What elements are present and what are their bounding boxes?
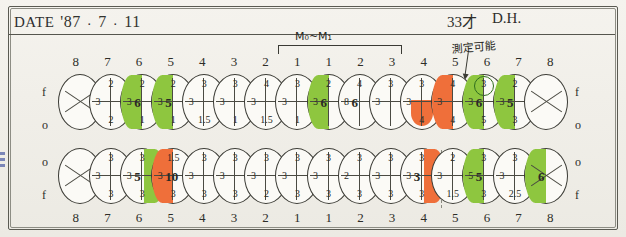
header-date-line: DATE '87 · 7 · 11 [14, 10, 141, 34]
pocket-depth-top: 3 [476, 153, 492, 163]
upper-tooth-number-7: 1 [281, 54, 313, 70]
pocket-depth-bottom: 3 [352, 189, 368, 199]
pocket-depth-top: 3 [289, 79, 305, 89]
pocket-depth-top: 2 [445, 153, 461, 163]
pocket-depth-top: 3 [227, 153, 243, 163]
upper-tooth-number-13: 6 [471, 54, 503, 70]
date-day: 11 [124, 13, 140, 31]
lower-tooth-numbers: 8765432112345678 [60, 210, 566, 226]
upper-tooth-number-3: 5 [155, 54, 187, 70]
pocket-depth-bottom: 3 [103, 189, 119, 199]
pocket-depth-top: 3 [321, 153, 337, 163]
pocket-depth-bottom: 3 [507, 115, 523, 125]
pocket-depth-top: 3 [196, 79, 212, 89]
pocket-depth-top: 2 [165, 79, 181, 89]
pocket-depth-bottom: 1 [289, 115, 305, 125]
lower-tooth-number-14: 7 [503, 210, 535, 226]
lower-tooth-number-4: 4 [187, 210, 219, 226]
pocket-depth-bottom: 3 [134, 189, 150, 199]
pocket-depth-bottom: 3 [476, 189, 492, 199]
date-month: 7 [98, 13, 107, 31]
pocket-depth-top: 2 [103, 79, 119, 89]
pocket-depth-top: 3 [289, 153, 305, 163]
upper-left-o-label: o [42, 118, 48, 133]
pocket-depth-top: 3 [507, 153, 523, 163]
pocket-depth-left: 3 [90, 171, 106, 181]
pocket-depth-left: 3 [370, 97, 386, 107]
pocket-depth-top: 3 [258, 153, 274, 163]
pocket-depth-top: 3 [227, 79, 243, 89]
pocket-depth-top: 3 [103, 153, 119, 163]
pocket-depth-left: 3 [276, 171, 292, 181]
pocket-depth-top: 4 [352, 79, 368, 89]
pocket-depth-left: 3 [245, 171, 261, 181]
pocket-depth-bottom: 1 [165, 115, 181, 125]
pocket-depth-bottom: 2 [103, 115, 119, 125]
pocket-depth-top: 3 [196, 153, 212, 163]
pocket-depth-top: 2 [321, 79, 337, 89]
tooth-index-number: 5 [476, 169, 483, 185]
lower-tooth-number-9: 2 [345, 210, 377, 226]
pocket-depth-top: 3 [134, 153, 150, 163]
tooth-index-number: 3 [414, 169, 421, 185]
lower-arch-row: 333333351.533310333333333233333333333322… [58, 148, 568, 206]
pocket-depth-top: 3 [414, 79, 430, 89]
pocket-depth-bottom: 3 [414, 189, 430, 199]
lower-left-f-label: f [42, 188, 46, 203]
tooth-index-number: 10 [165, 169, 178, 185]
lower-tooth-number-10: 3 [376, 210, 408, 226]
upper-tooth-number-10: 3 [376, 54, 408, 70]
pocket-depth-left: 3 [214, 97, 230, 107]
upper-tooth-number-1: 7 [92, 54, 124, 70]
date-year: '87 [60, 13, 80, 31]
pocket-depth-bottom: 2 [258, 189, 274, 199]
chart-sheet: DATE '87 · 7 · 11 33才 D.H. 測定可能 M₀~M₁ 87… [0, 0, 626, 237]
upper-arch-row: 223321362133531.533313341.53231332364863… [58, 74, 568, 132]
pocket-depth-left: 3 [214, 171, 230, 181]
pocket-depth-left: 3 [276, 97, 292, 107]
molar-range-label: M₀~M₁ [295, 30, 332, 43]
pocket-depth-bottom: 1 [227, 115, 243, 125]
upper-tooth-number-8: 1 [313, 54, 345, 70]
date-label: DATE [14, 14, 54, 31]
upper-tooth-u8r[interactable] [524, 74, 570, 132]
tooth-index-number: 5 [165, 95, 172, 111]
measurable-note: 測定可能 [451, 36, 496, 55]
date-separator-1: · [87, 14, 93, 31]
lower-tooth-number-11: 4 [408, 210, 440, 226]
pocket-depth-left: 3 [494, 171, 510, 181]
pocket-depth-top: 2 [134, 79, 150, 89]
pocket-depth-bottom: 3 [165, 189, 181, 199]
pocket-depth-left: 3 [308, 171, 324, 181]
tooth-index-number: 6 [538, 169, 545, 185]
lower-tooth-number-6: 2 [250, 210, 282, 226]
lower-left-o-label: o [42, 155, 48, 170]
margin-ticks [0, 152, 6, 172]
pocket-depth-bottom: 1.5 [445, 189, 461, 199]
lower-right-f-label: f [575, 188, 579, 203]
lower-tooth-number-15: 8 [534, 210, 566, 226]
upper-tooth-number-14: 7 [503, 54, 535, 70]
upper-tooth-number-9: 2 [345, 54, 377, 70]
pocket-depth-top: 1.5 [165, 153, 181, 163]
lower-tooth-number-7: 1 [281, 210, 313, 226]
pocket-depth-top: 3 [352, 153, 368, 163]
pocket-depth-top: 3 [414, 153, 430, 163]
upper-tooth-number-11: 4 [408, 54, 440, 70]
pocket-depth-bottom: 5 [476, 115, 492, 125]
upper-tooth-number-2: 6 [123, 54, 155, 70]
date-separator-2: · [113, 14, 119, 31]
pocket-depth-top: 3 [383, 153, 399, 163]
patient-age: 33才 [447, 10, 477, 31]
lower-tooth-number-5: 3 [218, 210, 250, 226]
lower-tooth-number-13: 6 [471, 210, 503, 226]
pocket-depth-left: 3 [432, 171, 448, 181]
lower-tooth-l8r[interactable]: 6 [524, 148, 570, 206]
lower-tooth-number-12: 5 [440, 210, 472, 226]
tooth-index-number: 5 [507, 95, 514, 111]
pocket-depth-bottom: 3 [196, 189, 212, 199]
pocket-depth-left: 3 [401, 97, 417, 107]
pocket-depth-bottom: 1.5 [258, 115, 274, 125]
upper-right-o-label: o [575, 118, 581, 133]
upper-right-f-label: f [575, 85, 579, 100]
